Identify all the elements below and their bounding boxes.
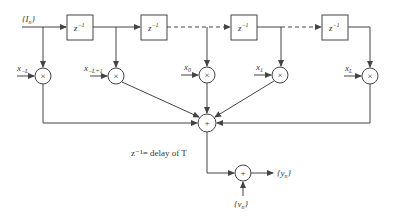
times-icon: ×	[113, 71, 118, 81]
tap-label-5: xL	[344, 63, 353, 74]
caption: z⁻¹= delay of T	[131, 148, 187, 158]
times-icon: ×	[277, 70, 282, 80]
output-label: {yn}	[277, 168, 292, 179]
noise-label: {vn}	[234, 199, 249, 210]
times-icon: ×	[204, 70, 209, 80]
input-label: {In}	[22, 14, 36, 25]
tap-label-2: x−L+1	[83, 63, 102, 74]
input-line	[22, 27, 66, 67]
plus-icon: +	[204, 118, 209, 128]
tap-label-3: x0	[183, 62, 191, 73]
times-icon: ×	[40, 71, 45, 81]
tap-label-1: x−L	[16, 63, 29, 74]
tap-label-4: x1	[255, 62, 263, 73]
tapped-delay-line-diagram: z−1 z−1 z−1 z−1 {In} x−L x−L+1 x0 x1 xL …	[0, 0, 393, 221]
times-icon: ×	[367, 71, 372, 81]
plus-icon: +	[240, 168, 245, 178]
